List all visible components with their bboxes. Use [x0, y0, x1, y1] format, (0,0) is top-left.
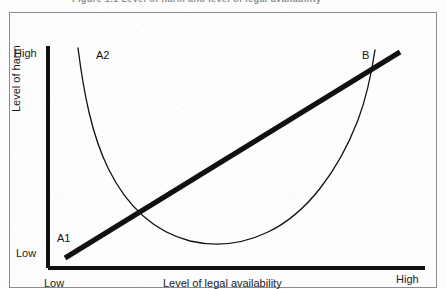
x-axis-low-label: Low: [44, 277, 64, 289]
line-a1-b: [65, 52, 400, 258]
y-axis-low-label: Low: [16, 247, 36, 259]
x-axis-title: Level of legal availability: [163, 277, 282, 289]
x-axis-high-label: High: [396, 273, 419, 285]
annotation-a2: A2: [96, 49, 109, 61]
annotation-b: B: [362, 49, 369, 61]
figure-container: Figure 1.1 Level of harm and level of le…: [0, 0, 447, 289]
chart-plot: [0, 0, 447, 289]
annotation-a1: A1: [57, 232, 70, 244]
y-axis-title: Level of harm: [10, 45, 22, 112]
curve-a2: [78, 48, 375, 244]
